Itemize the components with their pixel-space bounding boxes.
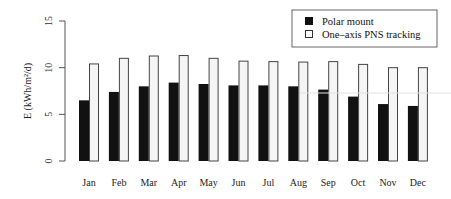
bar-pns-tracking [239,61,248,161]
bar-polar-mount [199,84,209,161]
bar-pns-tracking [299,62,308,161]
legend: Polar mount One–axis PNS tracking [292,10,437,47]
bar-pns-tracking [389,68,398,161]
y-tick-label: 5 [43,112,54,117]
legend-label-polar: Polar mount [322,16,374,27]
bar-pns-tracking [359,64,368,161]
bar-polar-mount [109,92,119,161]
x-tick-label: Apr [171,177,187,188]
x-axis-labels: JanFebMarAprMayJunJulAugSepOctNovDec [82,177,426,188]
x-tick-label: Mar [140,177,157,188]
bar-polar-mount [318,90,328,161]
x-tick-label: Sep [321,177,336,188]
x-tick-label: Feb [111,177,126,188]
y-axis-label: E (kWh/m²/d) [22,63,34,119]
y-tick-label: 10 [43,63,54,73]
bar-pns-tracking [269,62,278,161]
bar-polar-mount [258,85,268,161]
bar-pns-tracking [209,58,218,161]
x-tick-label: Dec [410,177,427,188]
x-tick-label: Oct [351,177,366,188]
bars [79,56,427,161]
bar-chart: 051015 JanFebMarAprMayJunJulAugSepOctNov… [0,0,451,199]
bar-pns-tracking [329,62,338,161]
bar-polar-mount [139,86,149,161]
bar-pns-tracking [90,64,99,161]
y-axis: 051015 [43,16,65,164]
bar-polar-mount [169,83,179,161]
legend-swatch-tracking [306,31,313,38]
bar-pns-tracking [149,56,158,161]
x-tick-label: May [199,177,217,188]
bar-polar-mount [79,100,89,161]
bar-pns-tracking [119,58,128,161]
x-tick-label: Jan [82,177,95,188]
legend-label-tracking: One–axis PNS tracking [322,29,421,40]
x-tick-label: Jun [232,177,246,188]
y-tick-label: 15 [43,16,54,26]
bar-polar-mount [408,106,418,161]
y-tick-label: 0 [43,159,54,164]
bar-pns-tracking [418,68,427,161]
x-tick-label: Jul [263,177,275,188]
bar-polar-mount [229,85,239,161]
x-tick-label: Aug [290,177,307,188]
bar-pns-tracking [179,56,188,161]
bar-polar-mount [348,97,358,161]
legend-swatch-polar [305,17,313,25]
bar-polar-mount [288,86,298,161]
bar-polar-mount [378,104,388,161]
x-tick-label: Nov [379,177,396,188]
